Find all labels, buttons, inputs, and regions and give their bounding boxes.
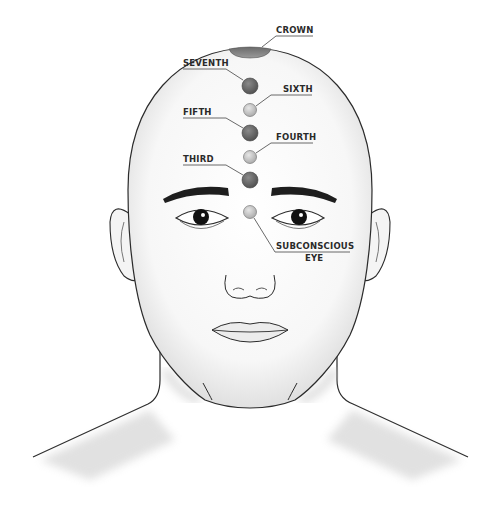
seventh-label: SEVENTH <box>183 58 229 68</box>
head-diagram: CROWN SEVENTH SIXTH FIFTH FOURTH THIRD <box>0 0 501 509</box>
fourth-label: FOURTH <box>276 132 316 142</box>
subconscious-label: SUBCONSCIOUS <box>276 241 354 251</box>
fifth-label: FIFTH <box>183 107 212 117</box>
subconscious-label-line2: EYE <box>305 253 323 263</box>
head <box>128 48 372 408</box>
crown-label: CROWN <box>276 25 314 35</box>
sixth-label: SIXTH <box>283 84 313 94</box>
third-label: THIRD <box>183 154 214 164</box>
